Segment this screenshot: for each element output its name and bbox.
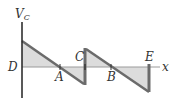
x-axis-label: x: [162, 60, 169, 74]
y-axis-label: VC: [15, 7, 30, 22]
point-label-b: B: [106, 70, 116, 84]
point-label-d: D: [7, 60, 18, 74]
point-label-a: A: [54, 70, 64, 84]
sawtooth-diagram: VC x D A C B E: [0, 0, 176, 105]
point-label-e: E: [144, 50, 154, 64]
point-label-c: C: [75, 50, 84, 64]
